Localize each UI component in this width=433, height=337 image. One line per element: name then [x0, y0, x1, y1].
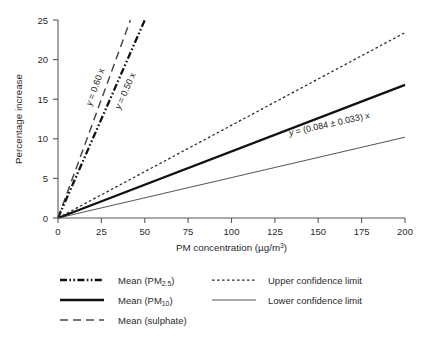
legend-label-mean-pm25-main: Mean (PM — [118, 275, 162, 286]
series-mean-sulphate — [58, 20, 130, 218]
x-tick-label-200: 200 — [397, 226, 413, 237]
legend-label-mean-pm25-tail: ) — [171, 275, 174, 286]
x-axis-ticks — [58, 218, 405, 223]
y-axis-title: Percentage increase — [13, 74, 24, 164]
x-tick-label-125: 125 — [267, 226, 283, 237]
annotation-pm25: y= 0.50 x — [112, 71, 138, 112]
legend-label-mean-pm25-sub: 2.5 — [162, 280, 172, 287]
x-tick-label-75: 75 — [183, 226, 194, 237]
y-axis-ticks — [53, 20, 58, 218]
annotation-pm10-rest: = (0.084 ± 0.033) x — [294, 110, 371, 136]
legend-label-mean-sulphate: Mean (sulphate) — [118, 315, 187, 326]
legend-left-column: Mean (PM2.5) Mean (PM10) Mean (sulphate) — [60, 275, 187, 326]
annotation-sulphate: y= 0.60 x — [84, 67, 107, 108]
legend-item-upper-confidence-limit[interactable]: Upper confidence limit — [212, 275, 362, 286]
x-tick-label-25: 25 — [96, 226, 107, 237]
x-tick-label-0: 0 — [55, 226, 60, 237]
legend-item-mean-pm10[interactable]: Mean (PM10) — [60, 295, 173, 308]
legend-item-mean-sulphate[interactable]: Mean (sulphate) — [60, 315, 187, 326]
y-tick-label-0: 0 — [43, 213, 48, 224]
x-tick-label-150: 150 — [310, 226, 326, 237]
series-mean-pm10 — [58, 85, 405, 218]
x-axis-title: PM concentration (µg/m3) — [176, 242, 287, 253]
x-tick-label-100: 100 — [224, 226, 240, 237]
legend-label-mean-pm10-main: Mean (PM — [118, 295, 162, 306]
x-axis-title-main: PM concentration (µg/m — [176, 242, 280, 253]
y-tick-label-5: 5 — [43, 173, 48, 184]
legend-label-mean-pm10: Mean (PM10) — [118, 295, 173, 308]
y-tick-label-15: 15 — [37, 94, 48, 105]
x-axis-title-tail: ) — [284, 242, 287, 253]
legend-label-mean-pm10-tail: ) — [169, 295, 172, 306]
x-tick-label-175: 175 — [354, 226, 370, 237]
legend-item-lower-confidence-limit[interactable]: Lower confidence limit — [212, 295, 362, 306]
figure-container: 0 5 10 15 20 25 0 25 50 75 100 125 150 1… — [0, 0, 433, 337]
annotation-sulphate-rest: = 0.60 x — [86, 67, 107, 101]
legend-label-lower-confidence-limit: Lower confidence limit — [268, 295, 362, 306]
series-mean-pm25 — [58, 20, 145, 218]
x-tick-label-50: 50 — [140, 226, 151, 237]
series-lower-confidence-limit — [58, 137, 405, 218]
chart-canvas: 0 5 10 15 20 25 0 25 50 75 100 125 150 1… — [0, 0, 433, 337]
series-upper-confidence-limit — [58, 33, 405, 218]
legend-label-mean-pm25: Mean (PM2.5) — [118, 275, 174, 288]
legend-label-upper-confidence-limit: Upper confidence limit — [268, 275, 362, 286]
annotation-pm25-rest: = 0.50 x — [115, 71, 137, 105]
legend-right-column: Upper confidence limit Lower confidence … — [212, 275, 362, 306]
y-tick-label-10: 10 — [37, 133, 48, 144]
y-tick-label-20: 20 — [37, 54, 48, 65]
legend-item-mean-pm25[interactable]: Mean (PM2.5) — [60, 275, 174, 288]
y-tick-label-25: 25 — [37, 15, 48, 26]
